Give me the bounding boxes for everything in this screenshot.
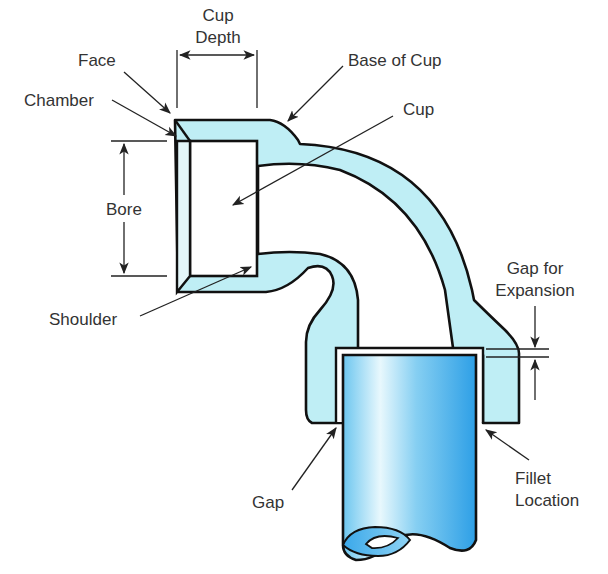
- gap-expansion-label-line2: Expansion: [495, 281, 574, 300]
- bore-label: Bore: [106, 200, 142, 219]
- cup-depth-label-line1: Cup: [202, 6, 233, 25]
- inserted-pipe: [336, 348, 483, 560]
- cup-label: Cup: [403, 100, 434, 119]
- fillet-location-label-line2: Location: [515, 491, 579, 510]
- cup-depth-dimension: [177, 50, 257, 108]
- fillet-location-label-line1: Fillet: [515, 469, 551, 488]
- face-leader: [124, 72, 170, 113]
- elbow-fitting-diagram: Cup Depth Face Chamber Base of Cup Cup B…: [0, 0, 608, 574]
- gap-expansion-label-line1: Gap for: [507, 259, 564, 278]
- base-of-cup-label: Base of Cup: [348, 51, 442, 70]
- shoulder-label: Shoulder: [49, 310, 117, 329]
- gap-label: Gap: [252, 493, 284, 512]
- fillet-leader: [486, 430, 529, 460]
- chamber-label: Chamber: [24, 91, 94, 110]
- chamber-leader: [112, 100, 176, 136]
- cup-depth-label-line2: Depth: [195, 28, 240, 47]
- base-of-cup-leader: [288, 66, 343, 121]
- chamfer-face: [177, 141, 190, 292]
- face-label: Face: [78, 51, 116, 70]
- cup-opening: [190, 141, 257, 276]
- gap-leader: [292, 428, 336, 490]
